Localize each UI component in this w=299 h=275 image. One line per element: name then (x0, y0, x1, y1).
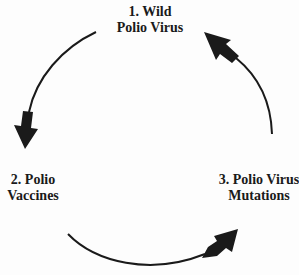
node-1-line-1: 1. Wild (100, 4, 200, 20)
cycle-arrows (0, 0, 299, 275)
node-2-line-1: 2. Polio (0, 172, 68, 188)
arrow-icon-1-to-2 (14, 32, 96, 149)
arrow-icon-2-to-3 (68, 229, 238, 265)
node-2-line-2: Vaccines (0, 188, 68, 204)
node-wild-polio-virus: 1. Wild Polio Virus (100, 4, 200, 36)
cycle-diagram: 1. Wild Polio Virus 2. Polio Vaccines 3.… (0, 0, 299, 275)
node-polio-vaccines: 2. Polio Vaccines (0, 172, 68, 204)
node-polio-virus-mutations: 3. Polio Virus Mutations (214, 172, 299, 204)
node-3-line-2: Mutations (214, 188, 299, 204)
arrow-icon-3-to-1 (204, 32, 272, 134)
node-3-line-1: 3. Polio Virus (214, 172, 299, 188)
node-1-line-2: Polio Virus (100, 20, 200, 36)
